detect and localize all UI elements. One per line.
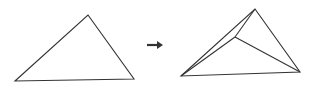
subdivided-triangle bbox=[181, 9, 300, 76]
interior-edge bbox=[235, 37, 300, 72]
arrow-icon bbox=[147, 41, 163, 49]
diagram-canvas bbox=[0, 0, 310, 90]
interior-edge bbox=[181, 37, 235, 76]
interior-edges bbox=[181, 9, 300, 76]
original-triangle bbox=[15, 15, 134, 81]
interior-edge bbox=[235, 9, 255, 37]
